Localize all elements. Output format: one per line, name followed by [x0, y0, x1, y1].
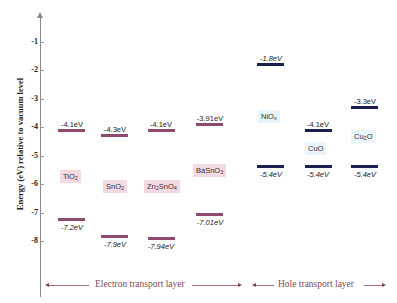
y-tick-label: -4	[24, 122, 38, 131]
cuo-cb-value: -4.1eV	[298, 120, 338, 129]
htl-left-line	[256, 285, 274, 286]
cuo-label: CuO	[305, 142, 326, 155]
tio2-cb-bar	[58, 129, 85, 132]
etl-right-arrow-icon	[238, 283, 242, 287]
cu2o-vb-bar	[351, 165, 378, 168]
y-tick-label: -1	[24, 37, 38, 46]
y-tick-label: -7	[24, 208, 38, 217]
sno2-cb-value: -4.3eV	[95, 125, 135, 134]
sno2-label: SnO2	[103, 180, 127, 193]
y-axis-title: Energy (eV) relative to vacuum level	[15, 64, 25, 224]
niox-label: NiOx	[258, 110, 280, 123]
tio2-vb-value: -7.2eV	[52, 223, 92, 232]
basno3-cb-value: -3.91eV	[190, 114, 230, 123]
y-tick-label: -6	[24, 179, 38, 188]
cu2o-cb-value: -3.3eV	[345, 97, 385, 106]
y-tick	[40, 70, 44, 71]
cu2o-vb-value: -5.4eV	[345, 170, 385, 179]
basno3-cb-bar	[196, 123, 223, 126]
y-tick	[40, 156, 44, 157]
y-tick	[40, 213, 44, 214]
basno3-label: BaSnO3	[193, 164, 226, 177]
niox-vb-bar	[257, 165, 284, 168]
y-tick-label: -8	[24, 236, 38, 245]
htl-layer-label: Hole transport layer	[278, 279, 354, 289]
zn2sno4-cb-value: -4.1eV	[141, 120, 181, 129]
y-tick	[40, 241, 44, 242]
zn2sno4-vb-value: -7.94eV	[141, 242, 181, 251]
sno2-vb-bar	[101, 235, 128, 238]
niox-cb-value: -1.8eV	[251, 54, 291, 63]
y-tick	[40, 42, 44, 43]
etl-layer-label: Electron transport layer	[95, 279, 185, 289]
y-tick	[40, 184, 44, 185]
etl-left-line	[49, 285, 89, 286]
sno2-vb-value: -7.9eV	[95, 240, 135, 249]
niox-vb-value: -5.4eV	[251, 170, 291, 179]
cuo-cb-bar	[305, 129, 332, 132]
sno2-cb-bar	[101, 134, 128, 137]
y-tick	[40, 99, 44, 100]
tio2-cb-value: -4.1eV	[52, 120, 92, 129]
tio2-vb-bar	[58, 218, 85, 221]
niox-cb-bar	[257, 63, 284, 66]
cuo-vb-value: -5.4eV	[298, 170, 338, 179]
y-tick-label: -3	[24, 94, 38, 103]
basno3-vb-bar	[196, 213, 223, 216]
tio2-label: TiO2	[60, 170, 81, 183]
htl-right-line	[364, 285, 382, 286]
y-tick	[40, 127, 44, 128]
y-tick-label: -5	[24, 151, 38, 160]
htl-right-arrow-icon	[382, 283, 386, 287]
etl-right-line	[192, 285, 238, 286]
zn2sno4-vb-bar	[148, 237, 175, 240]
basno3-vb-value: -7.01eV	[190, 218, 230, 227]
cu2o-cb-bar	[351, 106, 378, 109]
cu2o-label: Cu2O	[351, 130, 376, 143]
y-tick-label: -2	[24, 65, 38, 74]
cuo-vb-bar	[305, 165, 332, 168]
zn2sno4-label: Zn2SnO4	[144, 180, 180, 193]
zn2sno4-cb-bar	[148, 129, 175, 132]
